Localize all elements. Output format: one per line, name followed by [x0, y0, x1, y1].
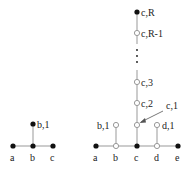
left-node-a — [10, 143, 15, 148]
label-c2: c,2 — [141, 98, 153, 109]
right-node-cR — [134, 9, 139, 14]
left-node-c — [50, 143, 55, 148]
right-node-d1 — [154, 122, 159, 127]
left-tree: b,1 a b c — [10, 119, 56, 163]
right-label-d: d — [154, 152, 159, 163]
right-label-a: a — [93, 152, 98, 163]
right-label-c: c — [134, 152, 139, 163]
label-b1: b,1 — [97, 120, 110, 131]
left-label-c: c — [50, 152, 55, 163]
right-node-d — [154, 143, 159, 148]
right-node-a — [93, 143, 98, 148]
diagram-canvas: b,1 a b c c,R c,R-1 — [0, 0, 190, 169]
left-label-b1: b,1 — [37, 119, 50, 130]
left-label-a: a — [10, 152, 15, 163]
left-node-b — [30, 143, 35, 148]
right-node-c2 — [134, 100, 139, 105]
left-label-b: b — [30, 152, 35, 163]
right-label-e: e — [175, 152, 180, 163]
label-d1: d,1 — [162, 120, 175, 131]
label-c3: c,3 — [141, 77, 153, 88]
right-node-cR-1 — [134, 30, 139, 35]
ellipsis-dot — [136, 55, 138, 57]
left-node-b1 — [30, 121, 35, 126]
arrow-c1-head — [140, 118, 147, 123]
right-node-b1 — [113, 122, 118, 127]
right-tree: c,R c,R-1 c,3 c,2 c,1 b,1 d,1 a b c d e — [93, 7, 181, 163]
right-node-c3 — [134, 79, 139, 84]
ellipsis-dot — [136, 49, 138, 51]
right-node-c — [134, 143, 139, 148]
right-node-e — [175, 143, 180, 148]
label-cR: c,R — [141, 7, 155, 18]
right-node-c1 — [134, 122, 139, 127]
label-cR-1: c,R-1 — [141, 28, 163, 39]
label-c1: c,1 — [166, 100, 178, 111]
right-label-b: b — [113, 152, 118, 163]
right-node-b — [113, 143, 118, 148]
ellipsis-dot — [136, 61, 138, 63]
